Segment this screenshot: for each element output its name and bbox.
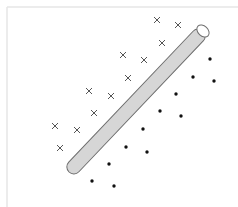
dot-marker <box>112 184 115 187</box>
cross-marker <box>52 123 58 129</box>
cross-marker <box>125 75 131 81</box>
cross-marker <box>108 93 114 99</box>
cross-marker <box>91 110 97 116</box>
cross-marker <box>159 40 165 46</box>
dot-marker <box>107 162 110 165</box>
dot-marker <box>174 92 177 95</box>
cross-marker <box>154 17 160 23</box>
dot-marker <box>208 57 211 60</box>
dot-marker <box>145 150 148 153</box>
cross-marker <box>141 57 147 63</box>
cross-marker <box>86 88 92 94</box>
diagram-canvas <box>0 0 238 207</box>
cylinder-body-group <box>64 23 212 177</box>
cross-marker <box>57 145 63 151</box>
cross-marker <box>120 52 126 58</box>
cross-marker <box>74 127 80 133</box>
dot-marker <box>212 79 215 82</box>
dot-marker <box>191 75 194 78</box>
cross-marker <box>175 22 181 28</box>
dot-marker <box>141 127 144 130</box>
cylinder-body <box>64 26 208 177</box>
separator-cylinder <box>64 23 212 177</box>
dot-marker <box>124 145 127 148</box>
dot-marker <box>179 114 182 117</box>
dot-marker <box>158 109 161 112</box>
dot-marker <box>90 179 93 182</box>
